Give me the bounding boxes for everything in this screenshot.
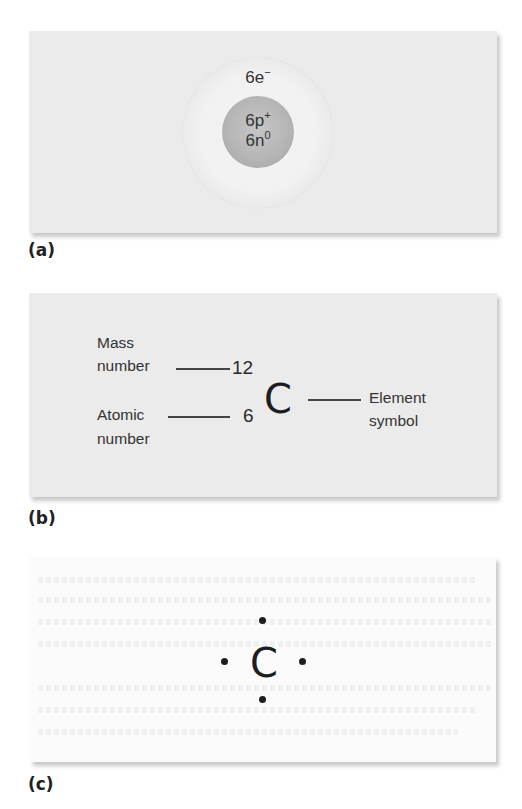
neutron-count-label: 6n0 [222,131,294,151]
bleed-through-texture [38,577,478,583]
electron-charge: − [264,66,270,78]
valence-electron-dot-left [221,658,228,665]
electron-count-label: 6e− [183,68,333,88]
proton-count-label: 6p+ [222,111,294,131]
atomic-number-label-line2: number [97,429,150,449]
nucleus: 6p+ 6n0 [222,96,294,168]
atomic-number-leader-line [168,416,230,418]
panel-lewis-structure: C [30,557,496,762]
panel-atom-model: 6e− 6p+ 6n0 [29,31,497,233]
atomic-number-label-line1: Atomic [97,405,144,425]
panel-label-b: (b) [28,508,56,528]
lewis-element-symbol: C [247,642,281,684]
neutron-count: 6n [245,131,264,150]
mass-number-leader-line [176,368,230,370]
mass-number-label-line2: number [97,356,150,376]
electron-count: 6e [245,68,264,87]
element-symbol-label-line2: symbol [369,411,418,431]
proton-count: 6p [245,111,264,130]
atomic-number: 6 [243,405,254,427]
valence-electron-dot-bottom [259,696,266,703]
element-symbol: C [264,377,292,421]
mass-number-label-line1: Mass [97,333,134,353]
electron-cloud: 6e− 6p+ 6n0 [183,58,333,208]
panel-label-c: (c) [28,774,54,794]
neutron-charge: 0 [264,129,270,141]
mass-number: 12 [232,357,253,379]
panel-label-a: (a) [28,240,55,260]
valence-electron-dot-right [299,658,306,665]
bleed-through-texture [38,729,458,735]
element-symbol-leader-line [308,399,361,401]
proton-charge: + [264,109,270,121]
element-symbol-label-line1: Element [369,388,426,408]
bleed-through-texture [38,597,493,603]
panel-isotope-notation: Mass number 12 Atomic number 6 C Element… [29,293,497,497]
bleed-through-texture [38,707,478,713]
valence-electron-dot-top [259,617,266,624]
